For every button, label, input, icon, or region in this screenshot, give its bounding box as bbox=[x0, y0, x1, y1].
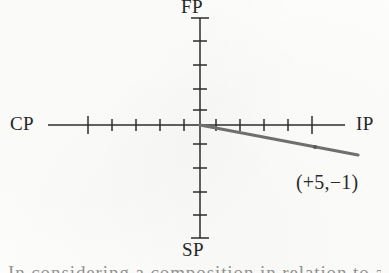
point-coordinate-label: (+5,−1) bbox=[296, 172, 358, 192]
axis-label-sp: SP bbox=[182, 240, 204, 259]
figure-container: FP SP CP IP (+5,−1) In considering a com… bbox=[0, 0, 389, 273]
vector-midpoint-marker bbox=[313, 145, 317, 149]
axis-label-fp: FP bbox=[181, 0, 203, 16]
vector-line bbox=[200, 125, 358, 155]
axis-label-ip: IP bbox=[356, 114, 374, 133]
clipped-caption-text: In considering a composition in relation… bbox=[8, 263, 381, 273]
axis-label-cp: CP bbox=[10, 114, 34, 133]
axes-diagram bbox=[0, 0, 389, 273]
